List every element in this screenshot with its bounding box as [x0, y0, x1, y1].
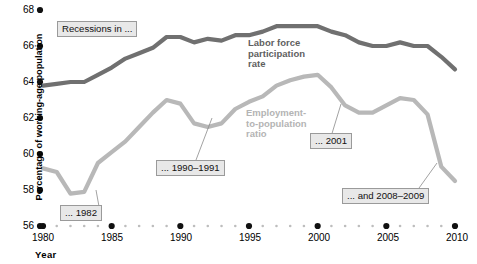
y-tick-dot-68 — [37, 7, 43, 13]
y-tick-label-66: 66 — [12, 41, 34, 51]
x-minor-dot-1983 — [83, 225, 86, 228]
y-tick-label-68: 68 — [12, 5, 34, 15]
x-minor-dot-2002 — [344, 225, 347, 228]
series-label-employment-to-population-ratio: Employment- to-population ratio — [246, 108, 307, 140]
x-minor-dot-1998 — [289, 225, 292, 228]
x-tick-dot-2000 — [315, 223, 321, 229]
x-minor-dot-2001 — [330, 225, 333, 228]
x-minor-dot-2008 — [426, 225, 429, 228]
y-tick-label-56: 56 — [12, 221, 34, 231]
x-minor-dot-1986 — [124, 225, 127, 228]
x-minor-dot-2009 — [440, 225, 443, 228]
x-tick-label-2000: 2000 — [299, 233, 339, 243]
x-tick-dot-2010 — [452, 223, 458, 229]
annotation-recession-2001: ... 2001 — [310, 133, 352, 149]
x-minor-dot-2007 — [413, 225, 416, 228]
x-axis-major-dots — [40, 223, 458, 229]
x-minor-dot-1989 — [165, 225, 168, 228]
x-tick-label-1985: 1985 — [92, 233, 132, 243]
x-tick-dot-1985 — [109, 223, 115, 229]
chart-plot-area — [0, 0, 477, 264]
x-minor-dot-1999 — [303, 225, 306, 228]
annotation-recessions-in: Recessions in ... — [57, 21, 137, 37]
y-tick-label-64: 64 — [12, 77, 34, 87]
x-minor-dot-1996 — [261, 225, 264, 228]
x-minor-dot-1982 — [69, 225, 72, 228]
x-minor-dot-1992 — [207, 225, 210, 228]
x-minor-dot-2006 — [399, 225, 402, 228]
annotation-recession-1982: ... 1982 — [60, 205, 102, 221]
y-tick-label-58: 58 — [12, 185, 34, 195]
x-minor-dot-2003 — [358, 225, 361, 228]
x-minor-dot-1981 — [55, 225, 58, 228]
x-minor-dot-1997 — [275, 225, 278, 228]
x-minor-dot-1991 — [193, 225, 196, 228]
x-axis-title: Year — [35, 249, 57, 260]
x-tick-label-2010: 2010 — [437, 233, 477, 243]
x-tick-label-1995: 1995 — [230, 233, 270, 243]
x-minor-dot-2004 — [371, 225, 374, 228]
y-tick-label-62: 62 — [12, 113, 34, 123]
x-minor-dot-1988 — [152, 225, 155, 228]
y-tick-label-60: 60 — [12, 149, 34, 159]
x-minor-dot-1993 — [220, 225, 223, 228]
y-tick-dot-56 — [37, 223, 43, 229]
x-tick-dot-2005 — [383, 223, 389, 229]
series-label-labor-force-participation-rate: Labor force participation rate — [248, 38, 305, 70]
chart-figure: Percentage of working-age population 68 … — [0, 0, 477, 264]
annotation-recession-1990-1991: ... 1990–1991 — [156, 160, 225, 176]
x-tick-dot-1990 — [177, 223, 183, 229]
x-minor-dot-1987 — [138, 225, 141, 228]
x-tick-dot-1995 — [246, 223, 252, 229]
x-tick-label-1980: 1980 — [23, 233, 63, 243]
annotation-recession-2008-2009: ... and 2008–2009 — [342, 188, 429, 204]
x-tick-label-2005: 2005 — [368, 233, 408, 243]
x-tick-label-1990: 1990 — [161, 233, 201, 243]
x-minor-dot-1984 — [97, 225, 100, 228]
x-minor-dot-1994 — [234, 225, 237, 228]
y-axis-title: Percentage of working-age population — [34, 22, 44, 212]
